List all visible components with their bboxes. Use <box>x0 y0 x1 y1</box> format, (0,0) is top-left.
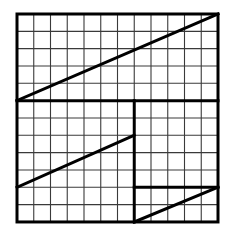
grid-diagram <box>0 0 229 236</box>
diagonal-lower-left <box>17 135 134 187</box>
diagram-canvas: Square grid partitioned into regions <box>0 0 229 236</box>
grid-lines <box>17 14 218 222</box>
